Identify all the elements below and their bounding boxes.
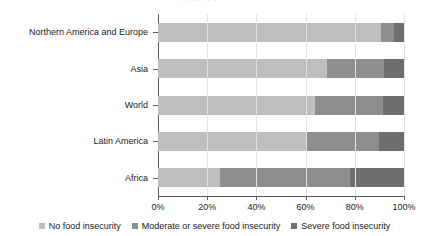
- x-tick-40: [256, 196, 257, 200]
- clipped-title-text: · · · · · · ·: [180, 0, 429, 5]
- legend-item[interactable]: Moderate or severe food insecurity: [132, 221, 281, 231]
- legend-swatch-icon: [39, 223, 45, 229]
- stacked-bar[interactable]: [158, 96, 404, 115]
- bar-segment[interactable]: [350, 168, 404, 187]
- gridline-40: [256, 14, 257, 196]
- legend-item[interactable]: No food insecurity: [39, 221, 121, 231]
- x-tick-label-20: 20%: [187, 202, 227, 212]
- bar-segment[interactable]: [220, 168, 350, 187]
- y-axis-label: World: [0, 100, 148, 110]
- y-axis-label: Northern America and Europe: [0, 27, 148, 37]
- x-tick-label-80: 80%: [335, 202, 375, 212]
- bar-segment[interactable]: [158, 168, 220, 187]
- legend-swatch-icon: [291, 223, 297, 229]
- bar-segment[interactable]: [381, 23, 395, 42]
- y-axis-label: Asia: [0, 64, 148, 74]
- bar-segment[interactable]: [315, 96, 383, 115]
- bar-row: [158, 168, 404, 187]
- bar-segment[interactable]: [158, 23, 381, 42]
- bar-segment[interactable]: [394, 23, 404, 42]
- bar-segment[interactable]: [158, 59, 327, 78]
- gridline-20: [207, 14, 208, 196]
- x-tick-20: [207, 196, 208, 200]
- legend-label: No food insecurity: [49, 221, 121, 231]
- bar-row: [158, 23, 404, 42]
- stacked-bar[interactable]: [158, 59, 404, 78]
- bar-segment[interactable]: [158, 96, 315, 115]
- bar-row: [158, 59, 404, 78]
- y-axis-label: Latin America: [0, 136, 148, 146]
- bar-row: [158, 132, 404, 151]
- stacked-bar[interactable]: [158, 132, 404, 151]
- y-axis-label: Africa: [0, 173, 148, 183]
- x-tick-0: [158, 196, 159, 200]
- bar-segment[interactable]: [158, 132, 307, 151]
- x-axis-line: [158, 196, 405, 197]
- stacked-bar-chart: · · · · · · · 0%20%40%60%80%100% Norther…: [0, 0, 429, 236]
- x-tick-label-60: 60%: [286, 202, 326, 212]
- y-tick: [153, 141, 158, 142]
- legend-item[interactable]: Severe food insecurity: [291, 221, 390, 231]
- gridline-60: [306, 14, 307, 196]
- y-tick: [153, 105, 158, 106]
- bar-segment[interactable]: [307, 132, 380, 151]
- chart-legend: No food insecurityModerate or severe foo…: [0, 219, 429, 233]
- stacked-bar[interactable]: [158, 168, 404, 187]
- bar-segment[interactable]: [383, 96, 404, 115]
- x-tick-label-0: 0%: [138, 202, 178, 212]
- gridline-100: [404, 14, 405, 196]
- stacked-bar[interactable]: [158, 23, 404, 42]
- legend-label: Severe food insecurity: [301, 221, 390, 231]
- bar-segment[interactable]: [379, 132, 404, 151]
- y-tick: [153, 69, 158, 70]
- clipped-title-artifact: · · · · · · ·: [180, 0, 429, 7]
- gridline-80: [355, 14, 356, 196]
- y-tick: [153, 32, 158, 33]
- x-tick-label-40: 40%: [236, 202, 276, 212]
- y-tick: [153, 178, 158, 179]
- bar-row: [158, 96, 404, 115]
- bar-segment[interactable]: [384, 59, 404, 78]
- plot-area: [158, 14, 404, 196]
- x-tick-80: [355, 196, 356, 200]
- x-tick-label-100: 100%: [384, 202, 424, 212]
- x-tick-60: [306, 196, 307, 200]
- x-tick-100: [404, 196, 405, 200]
- legend-swatch-icon: [132, 223, 138, 229]
- legend-label: Moderate or severe food insecurity: [142, 221, 281, 231]
